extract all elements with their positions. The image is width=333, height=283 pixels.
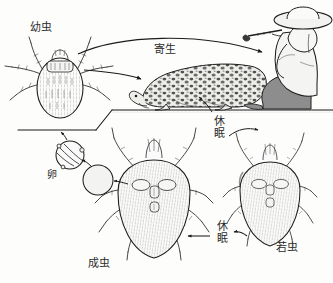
adult-coxa-left	[132, 180, 150, 191]
arrow-nymph-to-dormancy-lower[interactable]	[234, 232, 247, 236]
human-foot	[244, 104, 263, 109]
life-cycle-diagram: 幼虫 寄生 卵 成虫 若虫 休 眠 休 眠	[0, 0, 333, 283]
diagram-canvas	[0, 0, 333, 283]
human-hat-crown	[287, 7, 319, 19]
arrow-egg-to-larva[interactable]	[61, 132, 67, 140]
human-hand	[272, 34, 281, 36]
lizard-body	[143, 64, 266, 107]
lizard-eye	[135, 95, 138, 98]
nymph-mite	[223, 133, 317, 246]
lizard-host	[129, 64, 266, 110]
egg-sphere	[83, 165, 113, 195]
larva-mite	[5, 37, 113, 118]
arrow-dormancy-upper-to-nymph[interactable]	[229, 129, 258, 136]
adult-mite	[95, 128, 213, 260]
arrow-larva-to-human[interactable]	[78, 38, 262, 54]
arrow-larva-to-lizard[interactable]	[84, 70, 141, 79]
egg-stage	[56, 141, 113, 195]
arrow-adultegg-to-egg[interactable]	[82, 160, 92, 167]
adult-coxa-right	[158, 180, 176, 191]
